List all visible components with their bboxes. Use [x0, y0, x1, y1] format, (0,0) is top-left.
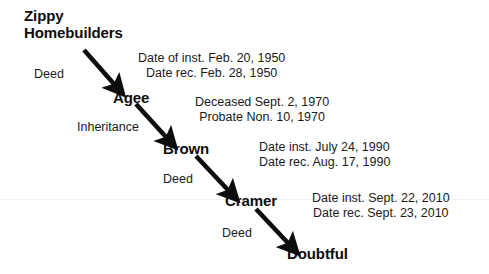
annotation-cramer-doubtful: Date inst. Sept. 22, 2010 Date rec. Sept…	[312, 191, 450, 221]
edge-label-inheritance-agee-brown: Inheritance	[77, 120, 139, 134]
node-cramer: Cramer	[225, 192, 277, 209]
edge-label-deed-zippy-agee: Deed	[34, 67, 64, 81]
annotation-brown-cramer: Date inst. July 24, 1990 Date rec. Aug. …	[259, 140, 390, 170]
annotation-brown-cramer-line1: Date inst. July 24, 1990	[259, 140, 390, 155]
annotation-agee-brown: Deceased Sept. 2, 1970 Probate Non. 10, …	[195, 95, 329, 125]
annotation-agee-brown-line2: Probate Non. 10, 1970	[195, 110, 329, 125]
annotation-zippy-agee-line1: Date of inst. Feb. 20, 1950	[138, 51, 285, 66]
annotation-brown-cramer-line2: Date rec. Aug. 17, 1990	[259, 155, 390, 170]
node-zippy-line2: Homebuilders	[24, 24, 123, 41]
annotation-zippy-agee: Date of inst. Feb. 20, 1950 Date rec. Fe…	[138, 51, 285, 81]
annotation-agee-brown-line1: Deceased Sept. 2, 1970	[195, 95, 329, 110]
edge-label-deed-brown-cramer: Deed	[163, 172, 193, 186]
annotation-zippy-agee-line2: Date rec. Feb. 28, 1950	[138, 66, 285, 81]
node-brown: Brown	[163, 140, 209, 157]
edge-label-deed-cramer-doubtful: Deed	[222, 226, 252, 240]
annotation-cramer-doubtful-line2: Date rec. Sept. 23, 2010	[312, 206, 450, 221]
annotation-cramer-doubtful-line1: Date inst. Sept. 22, 2010	[312, 191, 450, 206]
arrow-brown-to-cramer	[196, 156, 228, 190]
node-doubtful: Doubtful	[287, 245, 348, 262]
arrow-cramer-to-doubtful	[256, 209, 288, 243]
node-agee: Agee	[113, 89, 149, 106]
arrow-zippy-to-agee	[84, 50, 114, 84]
chain-of-title-diagram: Zippy Homebuilders Agee Brown Cramer Dou…	[0, 0, 489, 274]
node-zippy-homebuilders: Zippy Homebuilders	[24, 7, 154, 41]
node-zippy-line1: Zippy	[24, 7, 64, 24]
arrow-agee-to-brown	[136, 104, 166, 137]
